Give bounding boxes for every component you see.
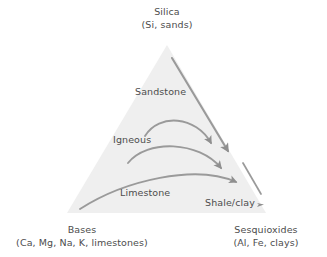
diagram-canvas: Silica (Si, sands) Bases (Ca, Mg, Na, K,… [0, 0, 327, 257]
corner-label-sesquioxides-detail: (Al, Fe, clays) [233, 237, 298, 250]
corner-label-sesquioxides-title: Sesquioxides [233, 224, 298, 237]
corner-label-silica-title: Silica [142, 6, 193, 19]
corner-label-bases-detail: (Ca, Mg, Na, K, limestones) [16, 237, 148, 250]
interior-label-shale-clay: Shale/clay [205, 197, 255, 210]
interior-label-limestone: Limestone [120, 187, 170, 200]
interior-label-sandstone: Sandstone [135, 86, 186, 99]
corner-label-sesquioxides: Sesquioxides (Al, Fe, clays) [233, 224, 298, 249]
corner-label-bases: Bases (Ca, Mg, Na, K, limestones) [16, 224, 148, 249]
interior-label-igneous: Igneous [113, 134, 151, 147]
corner-label-silica-detail: (Si, sands) [142, 19, 193, 32]
corner-label-silica: Silica (Si, sands) [142, 6, 193, 31]
corner-label-bases-title: Bases [16, 224, 148, 237]
triangle-diagram-svg [0, 0, 327, 257]
